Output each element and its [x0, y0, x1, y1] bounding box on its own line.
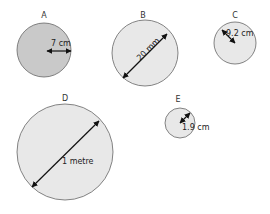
- circle-b: B 20 mm: [112, 11, 178, 86]
- circle-a-measurement: 7 cm: [51, 39, 71, 48]
- circle-d-measurement: 1 metre: [62, 157, 94, 166]
- circles-diagram: A 7 cm B 20 mm C 9.2 cm D 1 metre E 1.9 …: [0, 0, 270, 214]
- circle-c-measurement: 9.2 cm: [226, 29, 254, 38]
- circle-a-label: A: [41, 11, 47, 20]
- circle-d-label: D: [62, 94, 68, 103]
- circle-b-label: B: [140, 11, 146, 20]
- circle-a: A 7 cm: [17, 11, 71, 77]
- circle-e-measurement: 1.9 cm: [182, 123, 210, 132]
- circle-e-label: E: [175, 95, 180, 104]
- circle-c-label: C: [232, 11, 238, 20]
- circle-e: E 1.9 cm: [165, 95, 210, 138]
- circle-d: D 1 metre: [17, 94, 113, 200]
- circle-c: C 9.2 cm: [214, 11, 256, 64]
